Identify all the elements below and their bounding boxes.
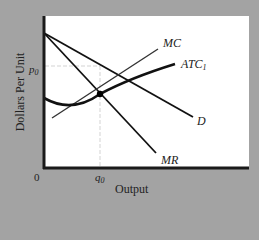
y-axis-title: Dollars Per Unit: [13, 53, 28, 132]
q0-tick-label: q0: [95, 172, 105, 185]
mc-label: MC: [163, 37, 181, 49]
p0-tick-label: p0: [29, 64, 39, 77]
atc-label: ATC1: [181, 58, 207, 72]
x-axis-title: Output: [115, 183, 148, 195]
equilibrium-point: [97, 91, 103, 97]
mr-label: MR: [161, 154, 178, 166]
d-label: D: [197, 115, 206, 127]
origin-label: 0: [34, 172, 40, 183]
